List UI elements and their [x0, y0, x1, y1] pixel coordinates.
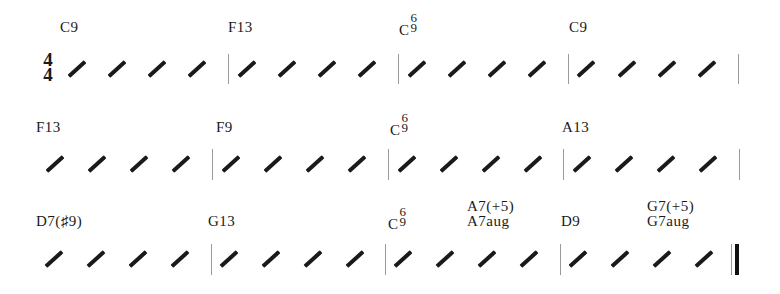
barline	[739, 149, 740, 180]
chord-symbol: C69	[399, 20, 419, 38]
chord-symbol: D9	[561, 214, 580, 229]
beat-slash	[67, 60, 86, 78]
chord-symbol-alternate: G7aug	[647, 214, 694, 229]
time-signature-bottom: 4	[41, 67, 55, 82]
barline	[211, 244, 212, 275]
barline	[212, 149, 213, 180]
chord-symbol: F13	[36, 120, 61, 135]
beat-slash	[694, 250, 713, 268]
beat-slash	[447, 60, 466, 78]
beat-slash	[568, 250, 587, 268]
barline	[388, 149, 389, 180]
beat-slash	[345, 250, 364, 268]
beat-slash	[219, 250, 238, 268]
barline	[563, 149, 564, 180]
chord-root: C	[399, 22, 410, 38]
chord-symbol: D7(♯9)	[36, 214, 82, 229]
beat-slash	[397, 155, 416, 173]
barline	[560, 244, 561, 275]
beat-slash	[614, 155, 633, 173]
beat-slash	[303, 250, 322, 268]
beat-slash	[439, 155, 458, 173]
chord-symbol: F13	[228, 20, 253, 35]
beat-slash	[87, 155, 106, 173]
barline	[228, 54, 229, 84]
chord-symbol-primary: G7(+5)	[647, 199, 694, 214]
beat-slash	[45, 155, 64, 173]
final-barline-thick	[735, 244, 739, 275]
beat-slash	[487, 60, 506, 78]
chord-symbol: C9	[60, 20, 79, 35]
barline	[398, 54, 399, 84]
beat-slash	[481, 155, 500, 173]
beat-slash	[317, 60, 336, 78]
beat-slash	[107, 60, 126, 78]
beat-slash	[572, 155, 591, 173]
beat-slash	[171, 155, 190, 173]
beat-slash	[347, 155, 366, 173]
beat-slash	[652, 250, 671, 268]
beat-slash	[221, 155, 240, 173]
barline	[385, 244, 386, 275]
beat-slash	[261, 250, 280, 268]
beat-slash	[527, 60, 546, 78]
chord-symbol: C69	[388, 214, 408, 232]
beat-slash	[576, 60, 595, 78]
beat-slash	[147, 60, 166, 78]
chord-symbol-stacked: G7(+5) G7aug	[647, 199, 694, 229]
chord-symbol: C9	[569, 20, 588, 35]
chord-symbol-stacked: A7(+5) A7aug	[467, 199, 514, 229]
beat-slash	[407, 60, 426, 78]
chord-symbol-primary: A7(+5)	[467, 199, 514, 214]
chord-symbol: A13	[562, 120, 589, 135]
beat-slash	[393, 250, 412, 268]
beat-slash	[519, 250, 538, 268]
beat-slash	[305, 155, 324, 173]
barline	[568, 54, 569, 84]
chord-symbol: G13	[208, 214, 235, 229]
chord-root: C	[390, 122, 401, 138]
chord-subscript: 9	[400, 215, 407, 228]
beat-slash	[477, 250, 496, 268]
chord-root: C	[388, 216, 399, 232]
barline	[738, 54, 739, 84]
chord-chart: 4 4 C9 F13 C69 C9 F13 F9 C69	[0, 0, 780, 294]
final-barline-thin	[731, 244, 732, 275]
time-signature: 4 4	[41, 52, 55, 82]
beat-slash	[610, 250, 629, 268]
beat-slash	[44, 250, 63, 268]
chord-symbol: F9	[216, 120, 233, 135]
beat-slash	[357, 60, 376, 78]
beat-slash	[657, 60, 676, 78]
beat-slash	[237, 60, 256, 78]
beat-slash	[170, 250, 189, 268]
beat-slash	[86, 250, 105, 268]
chord-subscript: 9	[411, 21, 418, 34]
chord-symbol-alternate: A7aug	[467, 214, 514, 229]
beat-slash	[129, 155, 148, 173]
chord-subscript: 9	[402, 121, 409, 134]
chord-symbol: C69	[390, 120, 410, 138]
beat-slash	[187, 60, 206, 78]
beat-slash	[435, 250, 454, 268]
beat-slash	[697, 60, 716, 78]
beat-slash	[698, 155, 717, 173]
beat-slash	[617, 60, 636, 78]
beat-slash	[263, 155, 282, 173]
beat-slash	[656, 155, 675, 173]
beat-slash	[128, 250, 147, 268]
beat-slash	[277, 60, 296, 78]
beat-slash	[523, 155, 542, 173]
